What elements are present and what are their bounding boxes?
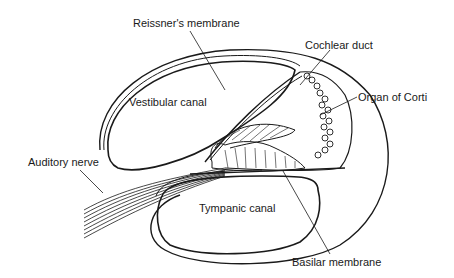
label-basilar-membrane: Basilar membrane (292, 256, 381, 268)
label-vestibular-canal: Vestibular canal (129, 96, 207, 108)
organ-of-corti-shape (211, 142, 305, 171)
cochlea-diagram (0, 0, 454, 278)
tympanic-canal-shape (157, 176, 319, 254)
label-reissners-membrane: Reissner's membrane (133, 17, 240, 29)
label-auditory-nerve: Auditory nerve (28, 156, 99, 168)
label-tympanic-canal: Tympanic canal (199, 202, 275, 214)
leader-lines (80, 31, 357, 254)
outer-wall (100, 50, 389, 264)
vestibular-canal-shape (108, 61, 295, 169)
stria-cells (304, 73, 333, 158)
label-organ-of-corti: Organ of Corti (358, 91, 427, 103)
label-cochlear-duct: Cochlear duct (305, 39, 373, 51)
